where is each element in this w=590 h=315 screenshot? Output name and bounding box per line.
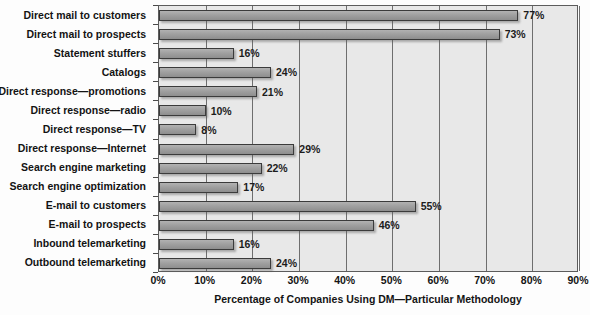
bar-value-label: 24% <box>276 67 297 78</box>
x-tick-label: 40% <box>334 275 355 286</box>
category-label: E-mail to customers <box>46 200 146 211</box>
x-tick-label: 60% <box>427 275 448 286</box>
x-tick-label: 20% <box>241 275 262 286</box>
category-label: Direct response—Internet <box>18 143 146 154</box>
category-label: Direct response—TV <box>43 124 146 135</box>
bar-value-label: 29% <box>299 144 320 155</box>
x-tick-label: 70% <box>474 275 495 286</box>
category-label: Outbound telemarketing <box>25 257 146 268</box>
bar <box>159 124 196 135</box>
category-label: Direct response—promotions <box>0 86 146 97</box>
bar-row: 46% <box>159 216 577 235</box>
bar-value-label: 24% <box>276 258 297 269</box>
bar-row: 8% <box>159 120 577 139</box>
category-tick <box>153 272 158 273</box>
category-label: Search engine marketing <box>21 162 146 173</box>
bar-row: 10% <box>159 101 577 120</box>
category-label: Catalogs <box>102 67 146 78</box>
category-tick <box>153 234 158 235</box>
bar-row: 16% <box>159 235 577 254</box>
bar <box>159 220 374 231</box>
bar-value-label: 16% <box>239 48 260 59</box>
gridline <box>579 6 580 271</box>
bar-value-label: 46% <box>379 220 400 231</box>
bar-row: 73% <box>159 25 577 44</box>
category-axis-labels: Direct mail to customersDirect mail to p… <box>0 5 152 272</box>
x-tick-label: 10% <box>194 275 215 286</box>
category-tick <box>153 215 158 216</box>
category-label: Statement stuffers <box>54 48 146 59</box>
plot-area: 77%73%16%24%21%10%8%29%22%17%55%46%16%24… <box>158 5 578 272</box>
category-label: E-mail to prospects <box>49 219 146 230</box>
x-tick-label: 50% <box>381 275 402 286</box>
bar <box>159 67 271 78</box>
bar-row: 16% <box>159 44 577 63</box>
bar-row: 22% <box>159 159 577 178</box>
bar <box>159 29 500 40</box>
category-tick <box>153 62 158 63</box>
bar-row: 21% <box>159 82 577 101</box>
x-axis-tick-labels: 0%10%20%30%40%50%60%70%80%90% <box>0 275 590 291</box>
bar <box>159 163 262 174</box>
category-label: Direct mail to customers <box>23 10 146 21</box>
bar <box>159 144 294 155</box>
bar <box>159 86 257 97</box>
bar <box>159 182 238 193</box>
category-tick <box>153 24 158 25</box>
category-tick <box>153 100 158 101</box>
chart-figure: 77%73%16%24%21%10%8%29%22%17%55%46%16%24… <box>0 0 590 315</box>
bar-rows: 77%73%16%24%21%10%8%29%22%17%55%46%16%24… <box>159 6 577 271</box>
bar-row: 24% <box>159 63 577 82</box>
bar-value-label: 22% <box>267 163 288 174</box>
category-tick <box>153 196 158 197</box>
category-label: Direct mail to prospects <box>26 29 146 40</box>
category-tick <box>153 158 158 159</box>
bar-row: 17% <box>159 178 577 197</box>
category-tick <box>153 253 158 254</box>
x-tick-label: 30% <box>287 275 308 286</box>
bar <box>159 258 271 269</box>
bar-row: 29% <box>159 140 577 159</box>
x-tick-label: 0% <box>150 275 165 286</box>
bar-value-label: 21% <box>262 87 283 98</box>
bar <box>159 48 234 59</box>
category-tick <box>153 177 158 178</box>
category-label: Inbound telemarketing <box>33 238 146 249</box>
bar <box>159 201 416 212</box>
bar-row: 24% <box>159 254 577 273</box>
x-tick-label: 90% <box>567 275 588 286</box>
category-tick <box>153 81 158 82</box>
bar-row: 77% <box>159 6 577 25</box>
category-label: Search engine optimization <box>9 181 146 192</box>
category-tick <box>153 43 158 44</box>
x-tick-label: 80% <box>521 275 542 286</box>
bar-value-label: 77% <box>523 10 544 21</box>
bar-value-label: 55% <box>421 201 442 212</box>
bar-value-label: 8% <box>201 125 216 136</box>
category-label: Direct response—radio <box>30 105 146 116</box>
bar <box>159 10 518 21</box>
bar <box>159 239 234 250</box>
category-tick <box>153 119 158 120</box>
bar-value-label: 16% <box>239 239 260 250</box>
bar-value-label: 10% <box>211 106 232 117</box>
bar <box>159 105 206 116</box>
category-tick <box>153 139 158 140</box>
bar-value-label: 73% <box>505 29 526 40</box>
bar-row: 55% <box>159 197 577 216</box>
x-axis-title: Percentage of Companies Using DM—Particu… <box>158 294 578 305</box>
category-tick <box>153 5 158 6</box>
bar-value-label: 17% <box>243 182 264 193</box>
